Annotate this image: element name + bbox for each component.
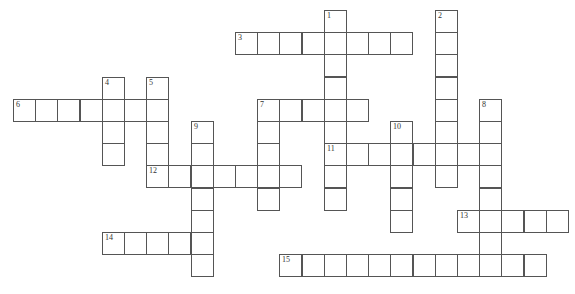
crossword-cell[interactable] xyxy=(479,188,502,211)
crossword-cell[interactable] xyxy=(457,254,480,277)
crossword-cell[interactable]: 15 xyxy=(279,254,302,277)
crossword-cell[interactable] xyxy=(501,254,524,277)
crossword-cell[interactable]: 5 xyxy=(146,77,169,100)
crossword-cell[interactable] xyxy=(191,165,214,188)
crossword-cell[interactable] xyxy=(302,254,325,277)
crossword-cell[interactable] xyxy=(257,188,280,211)
crossword-cell[interactable] xyxy=(524,254,547,277)
crossword-cell[interactable] xyxy=(435,121,458,144)
crossword-cell[interactable] xyxy=(390,32,413,55)
crossword-cell[interactable] xyxy=(191,143,214,166)
crossword-cell[interactable] xyxy=(479,143,502,166)
crossword-cell[interactable] xyxy=(479,165,502,188)
clue-number: 12 xyxy=(149,167,157,175)
crossword-cell[interactable] xyxy=(390,254,413,277)
crossword-cell[interactable]: 14 xyxy=(102,232,125,255)
crossword-cell[interactable] xyxy=(102,143,125,166)
crossword-cell[interactable] xyxy=(257,121,280,144)
crossword-cell[interactable] xyxy=(168,232,191,255)
clue-number: 9 xyxy=(194,123,198,131)
crossword-cell[interactable] xyxy=(368,143,391,166)
crossword-cell[interactable]: 13 xyxy=(457,210,480,233)
crossword-cell[interactable] xyxy=(390,143,413,166)
crossword-cell[interactable] xyxy=(257,165,280,188)
crossword-cell[interactable] xyxy=(324,121,347,144)
crossword-cell[interactable]: 4 xyxy=(102,77,125,100)
crossword-cell[interactable] xyxy=(501,210,524,233)
crossword-cell[interactable] xyxy=(390,210,413,233)
crossword-cell[interactable] xyxy=(479,254,502,277)
crossword-cell[interactable] xyxy=(324,188,347,211)
crossword-cell[interactable] xyxy=(191,254,214,277)
crossword-cell[interactable] xyxy=(124,232,147,255)
crossword-cell[interactable]: 10 xyxy=(390,121,413,144)
crossword-cell[interactable] xyxy=(390,188,413,211)
crossword-cell[interactable] xyxy=(368,32,391,55)
crossword-cell[interactable] xyxy=(479,121,502,144)
crossword-cell[interactable] xyxy=(146,99,169,122)
crossword-cell[interactable]: 1 xyxy=(324,10,347,33)
crossword-cell[interactable]: 12 xyxy=(146,165,169,188)
crossword-cell[interactable] xyxy=(279,32,302,55)
crossword-cell[interactable] xyxy=(479,210,502,233)
crossword-cell[interactable]: 7 xyxy=(257,99,280,122)
crossword-cell[interactable] xyxy=(235,165,258,188)
crossword-cell[interactable] xyxy=(146,232,169,255)
crossword-cell[interactable] xyxy=(257,32,280,55)
crossword-cell[interactable] xyxy=(524,210,547,233)
crossword-cell[interactable] xyxy=(435,99,458,122)
crossword-cell[interactable]: 8 xyxy=(479,99,502,122)
crossword-cell[interactable] xyxy=(546,210,569,233)
crossword-cell[interactable] xyxy=(302,32,325,55)
crossword-cell[interactable] xyxy=(324,32,347,55)
crossword-cell[interactable] xyxy=(324,254,347,277)
crossword-cell[interactable] xyxy=(435,143,458,166)
crossword-cell[interactable]: 9 xyxy=(191,121,214,144)
clue-number: 11 xyxy=(327,145,335,153)
crossword-cell[interactable]: 11 xyxy=(324,143,347,166)
clue-number: 10 xyxy=(393,123,401,131)
crossword-cell[interactable] xyxy=(168,165,191,188)
clue-number: 7 xyxy=(260,101,264,109)
crossword-cell[interactable] xyxy=(346,143,369,166)
crossword-cell[interactable] xyxy=(435,32,458,55)
crossword-cell[interactable] xyxy=(124,99,147,122)
crossword-cell[interactable] xyxy=(435,77,458,100)
crossword-cell[interactable] xyxy=(102,99,125,122)
crossword-cell[interactable] xyxy=(80,99,103,122)
crossword-cell[interactable]: 3 xyxy=(235,32,258,55)
crossword-cell[interactable] xyxy=(191,232,214,255)
crossword-cell[interactable] xyxy=(346,254,369,277)
crossword-cell[interactable] xyxy=(102,121,125,144)
crossword-cell[interactable] xyxy=(435,54,458,77)
crossword-cell[interactable] xyxy=(279,165,302,188)
crossword-cell[interactable] xyxy=(191,210,214,233)
crossword-cell[interactable] xyxy=(324,165,347,188)
crossword-cell[interactable] xyxy=(191,188,214,211)
crossword-cell[interactable] xyxy=(279,99,302,122)
crossword-cell[interactable] xyxy=(324,99,347,122)
crossword-cell[interactable] xyxy=(413,143,436,166)
crossword-cell[interactable] xyxy=(368,254,391,277)
crossword-cell[interactable] xyxy=(324,77,347,100)
crossword-cell[interactable] xyxy=(346,32,369,55)
clue-number: 6 xyxy=(16,101,20,109)
crossword-cell[interactable] xyxy=(302,99,325,122)
crossword-cell[interactable] xyxy=(257,143,280,166)
crossword-cell[interactable] xyxy=(213,165,236,188)
crossword-cell[interactable] xyxy=(146,121,169,144)
crossword-cell[interactable] xyxy=(390,165,413,188)
crossword-cell[interactable] xyxy=(435,254,458,277)
crossword-cell[interactable] xyxy=(346,99,369,122)
crossword-cell[interactable] xyxy=(479,232,502,255)
crossword-cell[interactable] xyxy=(146,143,169,166)
crossword-cell[interactable] xyxy=(457,143,480,166)
crossword-cell[interactable] xyxy=(435,165,458,188)
crossword-cell[interactable] xyxy=(35,99,58,122)
crossword-cell[interactable] xyxy=(413,254,436,277)
crossword-cell[interactable]: 2 xyxy=(435,10,458,33)
clue-number: 8 xyxy=(482,101,486,109)
crossword-cell[interactable]: 6 xyxy=(13,99,36,122)
crossword-cell[interactable] xyxy=(57,99,80,122)
crossword-cell[interactable] xyxy=(324,54,347,77)
